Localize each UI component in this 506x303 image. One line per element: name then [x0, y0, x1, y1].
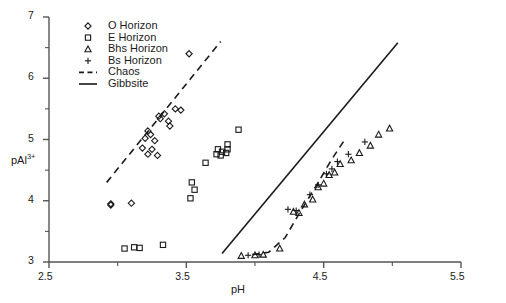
data-point-bhs-horizon: [367, 142, 373, 148]
legend-label: O Horizon: [108, 19, 158, 31]
y-axis-label: pAl3+: [11, 152, 35, 166]
data-point-bhs-horizon: [348, 157, 354, 163]
data-point-o-horizon: [152, 138, 158, 144]
data-point-o-horizon: [148, 132, 154, 138]
data-point-e-horizon: [132, 245, 137, 250]
axes: [43, 17, 461, 268]
data-point-o-horizon: [128, 200, 134, 206]
legend-label: Chaos: [108, 65, 140, 77]
data-point-o-horizon: [186, 51, 192, 57]
legend-label: Bs Horizon: [108, 54, 162, 66]
legend-label: Bhs Horizon: [108, 42, 168, 54]
y-tick-label: 6: [28, 70, 34, 82]
data-point-bhs-horizon: [238, 253, 244, 259]
x-tick-label: 4.5: [313, 270, 328, 282]
legend-marker-triangle: [85, 46, 91, 52]
data-point-bhs-horizon: [386, 125, 392, 131]
y-axis-label-superscript: 3+: [27, 152, 36, 161]
legend-marker-square: [85, 35, 90, 40]
data-point-o-horizon: [145, 151, 151, 157]
chart-container: pAl3+ pH 2.53.54.55.534567 O HorizonE Ho…: [0, 0, 506, 303]
data-point-e-horizon: [192, 187, 197, 192]
data-point-o-horizon: [178, 107, 184, 113]
y-tick-label: 7: [28, 9, 34, 21]
data-point-o-horizon: [172, 106, 178, 112]
data-point-bhs-horizon: [277, 245, 283, 251]
legend-label: E Horizon: [108, 31, 156, 43]
trend-line-chaos: [252, 138, 345, 254]
data-point-o-horizon: [154, 152, 160, 158]
y-axis-label-base: pAl: [11, 154, 27, 166]
x-tick-label: 2.5: [38, 270, 53, 282]
data-point-bhs-horizon: [332, 169, 338, 175]
data-point-e-horizon: [122, 246, 127, 251]
legend-markers: [79, 23, 97, 84]
y-tick-label: 3: [28, 254, 34, 266]
legend-label: Gibbsite: [108, 77, 148, 89]
data-point-bhs-horizon: [356, 150, 362, 156]
data-point-e-horizon: [203, 160, 208, 165]
legend-marker-diamond: [85, 23, 91, 29]
scatter-plot: [0, 0, 506, 303]
y-tick-label: 4: [28, 193, 34, 205]
data-point-o-horizon: [139, 145, 145, 151]
data-point-e-horizon: [189, 180, 194, 185]
data-point-o-horizon: [149, 146, 155, 152]
data-point-bhs-horizon: [321, 180, 327, 186]
x-tick-label: 5.5: [450, 270, 465, 282]
data-point-bhs-horizon: [290, 209, 296, 215]
data-points: [108, 51, 393, 259]
data-point-e-horizon: [188, 196, 193, 201]
data-point-bhs-horizon: [310, 196, 316, 202]
y-tick-label: 5: [28, 132, 34, 144]
x-axis-label: pH: [231, 283, 245, 295]
data-point-bhs-horizon: [376, 131, 382, 137]
x-tick-label: 3.5: [175, 270, 190, 282]
data-point-e-horizon: [137, 245, 142, 250]
data-point-e-horizon: [160, 242, 165, 247]
data-point-e-horizon: [236, 127, 241, 132]
